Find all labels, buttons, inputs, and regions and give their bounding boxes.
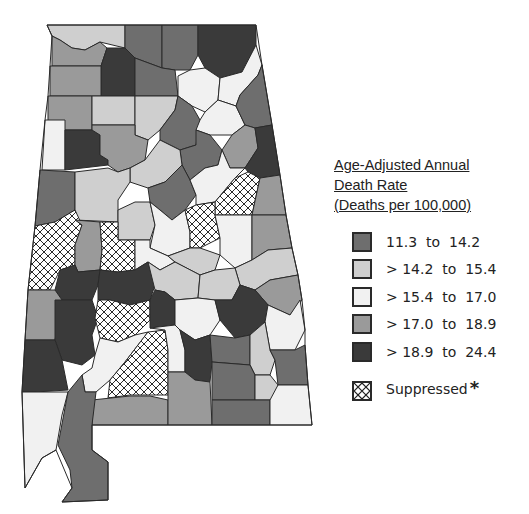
legend-label: > 17.0 to 18.9 [386, 316, 496, 332]
county-franklin [50, 66, 101, 96]
county-winston [92, 96, 135, 125]
legend-swatch [352, 314, 372, 334]
legend-label: > 14.2 to 15.4 [386, 261, 496, 277]
legend-item: > 18.9 to 24.4 [334, 338, 529, 366]
county-madison [162, 25, 198, 70]
county-coosa-hatch [185, 202, 220, 248]
crosshatch-swatch-icon [352, 381, 372, 401]
county-marengo [55, 265, 100, 300]
legend-items: 11.3 to 14.2 > 14.2 to 15.4 > 15.4 to 17… [334, 228, 529, 405]
legend-item-suppressed: Suppressed* [334, 378, 529, 406]
county-bibb [118, 202, 155, 240]
county-lawrence [101, 48, 135, 96]
legend: Age-Adjusted Annual Death Rate (Deaths p… [334, 155, 529, 405]
legend-title-line3: (Deaths per 100,000) [334, 195, 529, 215]
county-henry [270, 345, 308, 385]
legend-item: > 17.0 to 18.9 [334, 311, 529, 339]
county-pike [210, 335, 250, 365]
county-houston [270, 385, 312, 425]
suppressed-text: Suppressed [386, 381, 468, 397]
county-coffee [212, 362, 255, 400]
asterisk-marker: * [470, 377, 479, 398]
legend-swatch [352, 287, 372, 307]
county-geneva [212, 400, 270, 425]
county-clarke [55, 300, 98, 365]
legend-swatch [352, 259, 372, 279]
legend-swatch [352, 232, 372, 252]
counties [22, 25, 312, 502]
legend-title-line1: Age-Adjusted Annual [334, 155, 529, 175]
county-escambia [92, 396, 168, 425]
legend-title: Age-Adjusted Annual Death Rate (Deaths p… [334, 155, 529, 215]
legend-item: 11.3 to 14.2 [334, 228, 529, 256]
legend-label-suppressed: Suppressed* [386, 381, 479, 402]
county-lamar [42, 120, 65, 170]
county-tallapoosa [215, 215, 252, 268]
legend-item: > 14.2 to 15.4 [334, 256, 529, 284]
legend-label: > 18.9 to 24.4 [386, 344, 496, 360]
alabama-county-map [0, 0, 330, 514]
legend-label: 11.3 to 14.2 [386, 234, 480, 250]
legend-title-line2: Death Rate [334, 175, 529, 195]
legend-label: > 15.4 to 17.0 [386, 289, 496, 305]
legend-swatch [352, 342, 372, 362]
legend-item: > 15.4 to 17.0 [334, 283, 529, 311]
